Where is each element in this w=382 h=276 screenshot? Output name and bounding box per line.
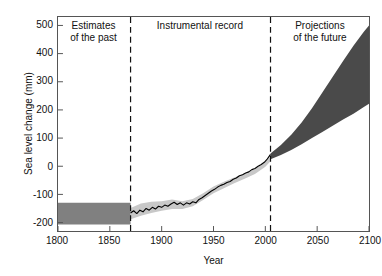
y-tick-label: -100 — [23, 190, 53, 200]
y-tick-label: 0 — [23, 162, 53, 172]
x-tick-label: 2050 — [298, 236, 338, 246]
y-tick-label: 200 — [23, 105, 53, 115]
x-tick-label: 1800 — [37, 236, 77, 246]
estimates-of-the-past: Estimates of the past — [34, 20, 154, 44]
series-band — [58, 203, 131, 225]
y-tick-label: 400 — [23, 48, 53, 58]
y-tick-label: -200 — [23, 218, 53, 228]
series-band — [271, 25, 369, 159]
x-axis-title: Year — [57, 255, 370, 266]
x-tick-label: 2000 — [246, 236, 286, 246]
x-tick-label: 1950 — [194, 236, 234, 246]
y-tick-label: 100 — [23, 133, 53, 143]
y-tick-label: 300 — [23, 76, 53, 86]
plot-area — [57, 16, 370, 232]
x-tick-label: 1900 — [141, 236, 181, 246]
plot-svg — [58, 17, 369, 231]
projections-of-the-future: Projections of the future — [260, 20, 380, 44]
x-tick-label: 2100 — [350, 236, 382, 246]
x-tick-label: 1850 — [89, 236, 129, 246]
instrumental-record: Instrumental record — [140, 20, 260, 32]
series-band — [131, 157, 271, 220]
sea-level-change-chart: Sea level change (mm) 5004003002001000-1… — [0, 0, 382, 276]
